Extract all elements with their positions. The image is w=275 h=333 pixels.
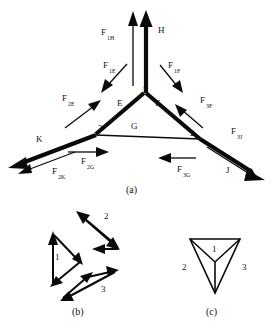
force-label-F3J: F 3J: [231, 126, 243, 140]
region-label-3: 3: [242, 262, 247, 272]
member-label-J: J: [226, 165, 230, 175]
force-label-F1E-sub: 1E: [109, 68, 116, 74]
force-label-F1H-base: F: [101, 27, 106, 37]
force-triangle-3-label: 3: [101, 284, 106, 294]
force-label-F3J-sub: 3J: [237, 134, 243, 140]
region-label-1: 1: [212, 244, 217, 254]
force-label-F3F: F 3F: [200, 95, 213, 109]
panel-b: 1 2 3 (b): [48, 211, 120, 318]
force-label-F2E-base: F: [62, 93, 67, 103]
force-label-F3G: F 3G: [177, 164, 191, 178]
force-diagram-figure: 1 2 3 H E F G K J F 1H F 1E F 1F F 2E F …: [0, 0, 275, 333]
panel-a: 1 2 3 H E F G K J F 1H F 1E F 1F F 2E F …: [8, 10, 265, 196]
force-label-F1H-sub: 1H: [107, 35, 115, 41]
caption-a: (a): [126, 184, 137, 196]
force-label-F2E-sub: 2E: [68, 101, 75, 107]
caption-c: (c): [206, 306, 217, 318]
force-label-F3J-base: F: [231, 126, 236, 136]
force-label-F2G: F 2G: [81, 156, 95, 170]
member-G: [96, 135, 200, 139]
force-label-F3G-base: F: [177, 164, 182, 174]
force-label-F1F: F 1F: [168, 60, 181, 74]
node-label-1: 1: [142, 85, 147, 95]
force-label-F2E: F 2E: [62, 93, 75, 107]
force-label-F3F-sub: 3F: [206, 103, 213, 109]
force-F1H-arrow: [128, 11, 138, 86]
force-label-F3G-sub: 3G: [183, 172, 191, 178]
node-label-3: 3: [98, 123, 103, 133]
force-label-F1H: F 1H: [101, 27, 115, 41]
force-label-F1F-base: F: [168, 60, 173, 70]
force-triangle-2: 2: [76, 211, 120, 254]
member-label-G: G: [131, 121, 138, 131]
force-label-F1E: F 1E: [103, 60, 116, 74]
force-F3J-arrow: [207, 147, 259, 180]
force-label-F1E-base: F: [103, 60, 108, 70]
node-label-2: 2: [190, 128, 195, 138]
member-H: [140, 10, 153, 93]
force-label-F2G-sub: 2G: [87, 164, 95, 170]
force-label-F2G-base: F: [81, 156, 86, 166]
force-label-F1F-sub: 1F: [174, 68, 181, 74]
member-label-K: K: [36, 134, 43, 144]
force-F2G-arrow: [68, 147, 109, 157]
member-label-H: H: [158, 25, 165, 35]
force-label-F2K: F 2K: [52, 166, 66, 180]
force-triangle-1: 1: [48, 231, 83, 287]
region-label-2: 2: [182, 262, 187, 272]
caption-b: (b): [72, 306, 84, 318]
force-label-F2K-base: F: [52, 166, 57, 176]
force-F3F-arrow: [175, 104, 203, 128]
force-F3G-arrow: [158, 153, 196, 163]
force-label-F3F-base: F: [200, 95, 205, 105]
force-triangle-2-label: 2: [104, 211, 109, 221]
member-label-F: F: [155, 98, 160, 108]
force-triangle-1-label: 1: [55, 252, 60, 262]
member-label-E: E: [117, 98, 123, 108]
force-label-F2K-sub: 2K: [58, 174, 66, 180]
panel-c: 1 2 3 (c): [182, 239, 247, 318]
